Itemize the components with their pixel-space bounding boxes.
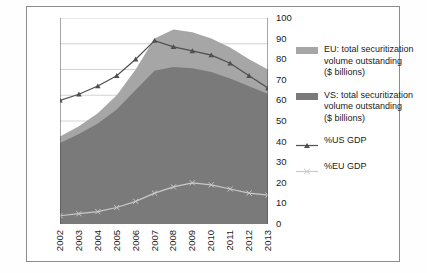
legend-label-line: EU: total securitization [324,44,414,56]
legend-line-marker-icon [296,136,318,145]
legend-label-line: %US GDP [324,135,367,147]
legend-us-gdp-line: %US GDP [296,135,422,147]
legend-label-line: VS: total securitization [324,90,413,102]
legend-swatch-icon [296,93,318,100]
legend-label: %EU GDP [324,161,367,173]
legend-label: EU: total securitizationvolume outstandi… [324,44,414,79]
y-axis-right-tick: 100 [276,13,316,23]
x-axis-tick: 2011 [225,230,235,250]
legend-label: %US GDP [324,135,367,147]
x-axis-tick: 2012 [244,230,254,251]
x-axis-tick: 2013 [263,230,273,251]
x-axis-tick: 2010 [206,230,216,251]
legend-eu-gdp-line: %EU GDP [296,161,422,173]
x-axis-tick: 2006 [131,230,141,251]
legend-label-line: volume outstanding [324,56,414,68]
y-axis-right-tick: 90 [276,34,316,44]
chart-canvas [60,18,268,224]
chart-screenshot: 02,0004,0006,0008,00010,00012,00014,0001… [0,0,427,273]
x-axis-tick: 2003 [74,230,84,251]
x-axis-tick: 2009 [187,230,197,251]
x-axis-tick: 2008 [168,230,178,251]
legend-label-line: ($ billions) [324,67,414,79]
x-axis-tick: 2002 [55,230,65,251]
y-axis-right-tick: 10 [276,198,316,208]
legend-label-line: volume outstanding [324,101,413,113]
legend-line-marker-icon [296,162,318,171]
legend-label-line: %EU GDP [324,161,367,173]
legend-eu-area: EU: total securitizationvolume outstandi… [296,44,422,79]
x-axis-tick: 2007 [150,230,160,251]
x-axis-tick: 2004 [93,230,103,251]
y-axis-right-tick: 0 [276,219,316,229]
legend-swatch-icon [296,47,318,54]
legend-label-line: ($ billions) [324,113,413,125]
x-axis-tick: 2005 [112,230,122,251]
plot-area: 02,0004,0006,0008,00010,00012,00014,0001… [60,18,268,224]
chart-legend: EU: total securitizationvolume outstandi… [296,44,422,186]
legend-us-area: VS: total securitizationvolume outstandi… [296,90,422,125]
legend-label: VS: total securitizationvolume outstandi… [324,90,413,125]
